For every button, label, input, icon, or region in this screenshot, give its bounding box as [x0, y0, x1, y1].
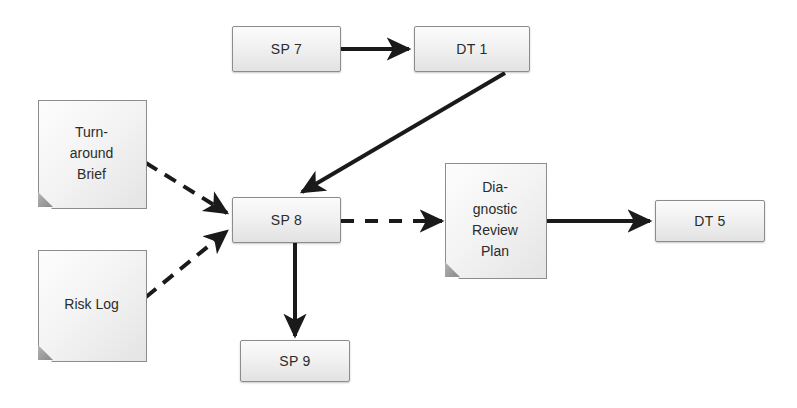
label-line-4: Plan	[481, 241, 509, 262]
edge-risk-log-to-sp8	[146, 231, 227, 297]
node-sp8[interactable]: SP 8	[232, 197, 341, 243]
node-diagnostic-review-plan[interactable]: Dia- gnostic Review Plan	[445, 163, 545, 277]
label-line-3: Brief	[77, 164, 106, 185]
edge-turnaround-brief-to-sp8	[146, 163, 227, 213]
label-line-1: Risk Log	[64, 294, 118, 315]
node-dt5[interactable]: DT 5	[655, 200, 765, 242]
node-sp9[interactable]: SP 9	[240, 340, 350, 382]
label-line-1: Dia-	[482, 177, 508, 198]
label-line-2: gnostic	[473, 199, 517, 220]
label-line-2: around	[70, 143, 114, 164]
node-sp7[interactable]: SP 7	[232, 26, 341, 72]
node-risk-log[interactable]: Risk Log	[38, 250, 145, 360]
node-turnaround-brief[interactable]: Turn- around Brief	[38, 100, 145, 207]
label-line-1: Turn-	[75, 122, 108, 143]
label-line-3: Review	[472, 220, 518, 241]
node-dt1-label: DT 1	[456, 41, 487, 57]
diagram-canvas: SP 7 DT 1 Turn- around Brief Risk Log SP…	[0, 0, 797, 408]
node-risk-log-label: Risk Log	[38, 250, 145, 360]
node-diagnostic-review-plan-label: Dia- gnostic Review Plan	[445, 163, 545, 277]
node-dt5-label: DT 5	[694, 213, 725, 229]
node-sp8-label: SP 8	[271, 212, 302, 228]
node-sp9-label: SP 9	[279, 353, 310, 369]
node-sp7-label: SP 7	[271, 41, 302, 57]
node-turnaround-brief-label: Turn- around Brief	[38, 100, 145, 207]
node-dt1[interactable]: DT 1	[414, 26, 530, 72]
